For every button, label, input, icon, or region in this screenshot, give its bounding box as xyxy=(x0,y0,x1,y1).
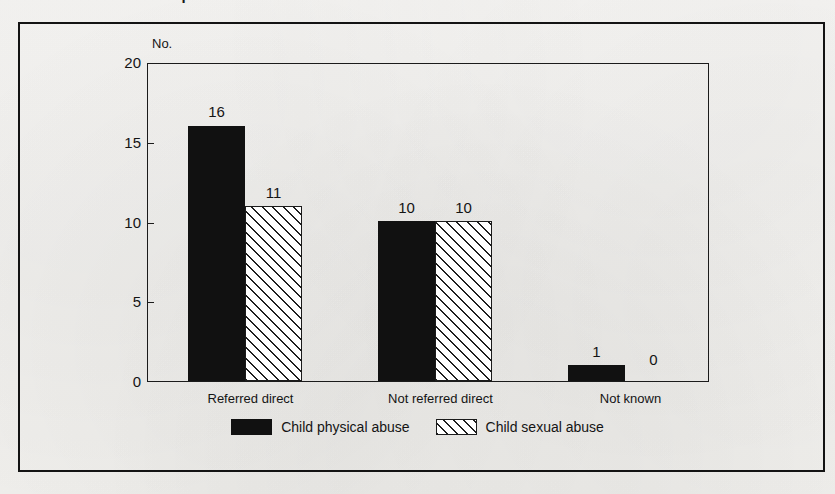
legend-swatch-hatched-icon xyxy=(436,419,477,435)
legend-label-child-physical-abuse: Child physical abuse xyxy=(281,420,409,435)
legend-swatch-solid-icon xyxy=(231,419,272,435)
chart-legend: Child physical abuse Child sexual abuse xyxy=(0,419,835,435)
y-tick-label-5: 5 xyxy=(107,295,141,309)
y-tick-label-10: 10 xyxy=(107,216,141,230)
y-tick-mark-10 xyxy=(147,223,154,224)
y-tick-label-15: 15 xyxy=(107,136,141,150)
bar-value-referred-direct-sexual: 11 xyxy=(245,185,302,200)
legend-label-child-sexual-abuse: Child sexual abuse xyxy=(486,420,604,435)
y-axis-unit-label: No. xyxy=(152,36,172,51)
y-tick-label-0: 0 xyxy=(107,375,141,389)
bar-value-referred-direct-physical: 16 xyxy=(188,104,245,119)
legend-item-child-sexual-abuse: Child sexual abuse xyxy=(436,419,604,435)
y-tick-label-20: 20 xyxy=(107,56,141,70)
legend-item-child-physical-abuse: Child physical abuse xyxy=(231,419,409,435)
x-axis-label-not-known: Not known xyxy=(538,392,723,406)
bar-value-not-known-physical: 1 xyxy=(568,344,625,359)
bar-value-not-known-sexual: 0 xyxy=(625,352,682,367)
bar-not-referred-direct-physical xyxy=(378,221,435,381)
bar-not-known-physical xyxy=(568,365,625,381)
bar-value-not-referred-direct-sexual: 10 xyxy=(435,200,492,215)
bar-value-not-referred-direct-physical: 10 xyxy=(378,200,435,215)
y-tick-mark-5 xyxy=(147,302,154,303)
bar-referred-direct-sexual xyxy=(245,206,302,381)
x-axis-label-referred-direct: Referred direct xyxy=(158,392,343,406)
figure-caption-clipped: compared xyxy=(150,0,410,3)
bar-not-referred-direct-sexual xyxy=(435,221,492,381)
figure-caption-text: compared xyxy=(150,0,410,3)
y-tick-mark-15 xyxy=(147,143,154,144)
x-axis-label-not-referred-direct: Not referred direct xyxy=(348,392,533,406)
bar-referred-direct-physical xyxy=(188,126,245,381)
